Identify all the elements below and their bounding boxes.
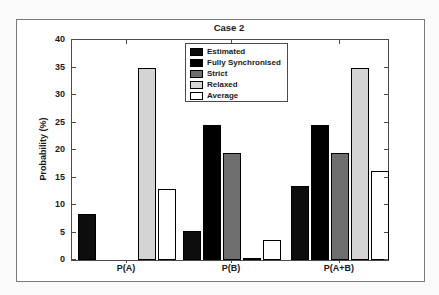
y-tick-mark-left bbox=[72, 149, 76, 150]
bar-estimated-p(b) bbox=[183, 231, 201, 260]
y-tick-mark-left bbox=[72, 67, 76, 68]
legend-item-fully-synchronised: Fully Synchronised bbox=[190, 57, 281, 68]
y-tick-label: 30 bbox=[39, 89, 65, 99]
x-tick-label: P(B) bbox=[201, 263, 261, 273]
bar-relaxed-p(a+b) bbox=[351, 68, 369, 260]
figure-frame: Case 2 Probability (%) EstimatedFully Sy… bbox=[16, 19, 425, 282]
y-tick-mark-right bbox=[384, 39, 388, 40]
bar-fully-synchronised-p(a+b) bbox=[311, 125, 329, 260]
bar-average-p(a+b) bbox=[371, 171, 389, 260]
legend-swatch-icon bbox=[190, 92, 203, 100]
y-tick-mark-right bbox=[384, 204, 388, 205]
bar-fully-synchronised-p(b) bbox=[203, 125, 221, 260]
legend-label: Estimated bbox=[207, 46, 245, 57]
y-tick-mark-left bbox=[72, 94, 76, 95]
bar-relaxed-p(a) bbox=[138, 68, 156, 260]
bar-average-p(a) bbox=[158, 189, 176, 261]
y-tick-mark-right bbox=[384, 259, 388, 260]
legend-swatch-icon bbox=[190, 81, 203, 89]
y-tick-mark-right bbox=[384, 177, 388, 178]
x-tick-mark-bottom bbox=[126, 260, 127, 263]
y-tick-mark-left bbox=[72, 39, 76, 40]
y-tick-label: 0 bbox=[39, 254, 65, 264]
y-tick-mark-right bbox=[384, 232, 388, 233]
legend-swatch-icon bbox=[190, 48, 203, 56]
legend-label: Strict bbox=[207, 68, 227, 79]
y-tick-label: 5 bbox=[39, 227, 65, 237]
y-tick-mark-left bbox=[72, 232, 76, 233]
legend-swatch-icon bbox=[190, 70, 203, 78]
y-tick-mark-left bbox=[72, 122, 76, 123]
x-tick-mark-top bbox=[126, 40, 127, 44]
bar-relaxed-p(b) bbox=[243, 258, 261, 260]
y-tick-mark-left bbox=[72, 259, 76, 260]
y-tick-label: 20 bbox=[39, 144, 65, 154]
x-tick-label: P(A+B) bbox=[309, 263, 369, 273]
y-tick-mark-right bbox=[384, 122, 388, 123]
legend-label: Average bbox=[207, 90, 238, 101]
legend-item-relaxed: Relaxed bbox=[190, 79, 238, 90]
x-tick-mark-bottom bbox=[231, 260, 232, 263]
bar-strict-p(a+b) bbox=[331, 153, 349, 260]
y-tick-label: 15 bbox=[39, 172, 65, 182]
legend-label: Relaxed bbox=[207, 79, 238, 90]
legend-box: EstimatedFully SynchronisedStrictRelaxed… bbox=[185, 43, 288, 102]
legend-swatch-icon bbox=[190, 59, 203, 67]
x-tick-mark-top bbox=[339, 40, 340, 44]
legend-item-average: Average bbox=[190, 90, 238, 101]
y-tick-label: 35 bbox=[39, 62, 65, 72]
y-tick-label: 40 bbox=[39, 34, 65, 44]
y-tick-mark-left bbox=[72, 204, 76, 205]
x-tick-mark-bottom bbox=[339, 260, 340, 263]
x-tick-label: P(A) bbox=[96, 263, 156, 273]
bar-estimated-p(a+b) bbox=[291, 186, 309, 260]
y-tick-mark-right bbox=[384, 94, 388, 95]
legend-item-strict: Strict bbox=[190, 68, 227, 79]
bar-strict-p(b) bbox=[223, 153, 241, 260]
y-tick-mark-left bbox=[72, 177, 76, 178]
chart-title: Case 2 bbox=[149, 22, 309, 33]
legend-label: Fully Synchronised bbox=[207, 57, 281, 68]
y-tick-label: 25 bbox=[39, 117, 65, 127]
bar-estimated-p(a) bbox=[78, 214, 96, 260]
y-tick-mark-right bbox=[384, 67, 388, 68]
bar-average-p(b) bbox=[263, 240, 281, 260]
y-tick-label: 10 bbox=[39, 199, 65, 209]
y-tick-mark-right bbox=[384, 149, 388, 150]
legend-item-estimated: Estimated bbox=[190, 46, 245, 57]
